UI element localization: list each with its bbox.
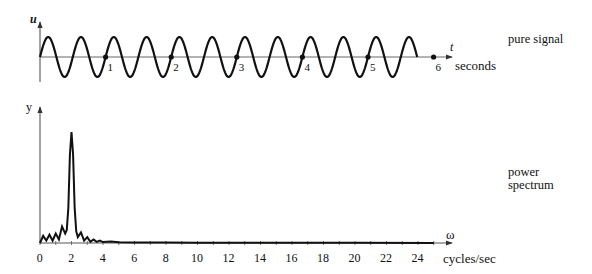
top-signal-plot bbox=[40, 22, 452, 82]
frequency-tick-label: 0 bbox=[37, 252, 43, 264]
second-marker-dot bbox=[300, 54, 305, 59]
second-marker-dot bbox=[103, 54, 108, 59]
time-tick-label: 3 bbox=[239, 61, 245, 73]
pure-signal-caption: pure signal bbox=[508, 33, 563, 46]
time-tick-label: 4 bbox=[304, 61, 310, 73]
power-spectrum-caption-line2: spectrum bbox=[508, 179, 554, 192]
frequency-tick-label: 14 bbox=[254, 252, 266, 264]
frequency-tick-label: 10 bbox=[191, 252, 203, 264]
bottom-spectrum-plot bbox=[40, 107, 452, 245]
time-tick-label: 5 bbox=[370, 61, 376, 73]
y-axis-label: y bbox=[26, 101, 32, 113]
cycles-per-sec-unit-label: cycles/sec bbox=[443, 253, 496, 265]
frequency-tick-label: 2 bbox=[68, 252, 74, 264]
seconds-unit-label: seconds bbox=[455, 60, 496, 72]
time-tick-label: 6 bbox=[436, 61, 442, 73]
omega-axis-label: ω bbox=[446, 229, 455, 241]
frequency-tick-label: 4 bbox=[100, 252, 106, 264]
t-axis-label: t bbox=[450, 41, 453, 53]
second-marker-dot bbox=[169, 54, 174, 59]
figure bbox=[0, 0, 592, 274]
second-marker-dot bbox=[365, 54, 370, 59]
frequency-tick-label: 20 bbox=[349, 252, 361, 264]
frequency-tick-label: 24 bbox=[412, 252, 424, 264]
frequency-tick-label: 16 bbox=[286, 252, 298, 264]
frequency-tick-label: 8 bbox=[163, 252, 169, 264]
power-spectrum-curve bbox=[40, 132, 434, 243]
frequency-tick-label: 12 bbox=[223, 252, 235, 264]
frequency-tick-label: 6 bbox=[131, 252, 137, 264]
time-tick-label: 2 bbox=[173, 61, 179, 73]
second-marker-dot bbox=[234, 54, 239, 59]
u-axis-label: u bbox=[30, 13, 37, 25]
time-tick-label: 1 bbox=[108, 61, 114, 73]
frequency-tick-label: 18 bbox=[317, 252, 329, 264]
frequency-tick-label: 22 bbox=[380, 252, 392, 264]
second-marker-dot bbox=[431, 54, 436, 59]
